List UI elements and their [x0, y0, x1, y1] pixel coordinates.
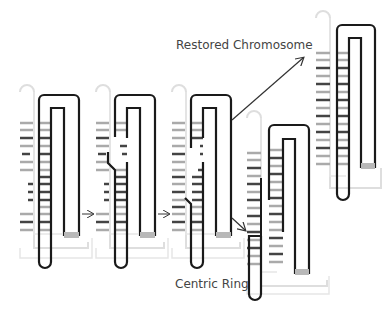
arrow-to-restored — [232, 58, 303, 120]
arrow-to-centric-ring — [232, 218, 245, 230]
panel-1 — [20, 85, 92, 268]
panel-2 — [96, 85, 168, 268]
panel-5-restored-chromosome — [316, 11, 381, 200]
centric-ring-label: Centric Ring — [175, 277, 249, 291]
restored-chromosome-label: Restored Chromosome — [176, 38, 313, 52]
panel-3 — [172, 85, 244, 268]
